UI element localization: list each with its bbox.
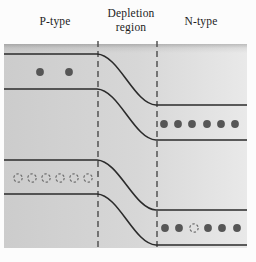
hole-circle	[42, 174, 50, 182]
electron-dot	[233, 224, 241, 232]
hole-circle	[190, 224, 198, 232]
electron-dot	[160, 120, 168, 128]
hole-circle	[56, 174, 64, 182]
electron-dot	[65, 68, 73, 76]
electron-dot	[161, 224, 169, 232]
band-line-valence-lower	[4, 194, 247, 245]
hole-circle	[28, 174, 36, 182]
pn-junction-band-diagram: P-type Depletion region N-type	[0, 0, 256, 262]
band-line-valence-upper	[4, 160, 247, 210]
electron-dot	[175, 224, 183, 232]
electron-dot	[204, 224, 212, 232]
band-line-conduction-upper	[4, 54, 247, 105]
band-line-conduction-lower	[4, 89, 247, 140]
electron-dot	[188, 120, 196, 128]
electron-dot	[174, 120, 182, 128]
electron-dot	[231, 120, 239, 128]
electron-dot	[203, 120, 211, 128]
band-diagram-overlay	[0, 0, 256, 262]
electron-dot	[217, 120, 225, 128]
hole-circle	[84, 174, 92, 182]
electron-dot	[218, 224, 226, 232]
electron-dot	[36, 68, 44, 76]
hole-circle	[70, 174, 78, 182]
hole-circle	[14, 174, 22, 182]
